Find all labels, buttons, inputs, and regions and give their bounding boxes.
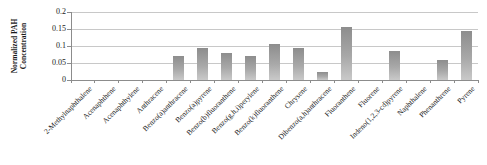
- x-axis-label: Benzo(k)fluoranthene: [233, 85, 285, 137]
- x-axis-tick: [166, 80, 167, 83]
- x-axis-tick: [190, 80, 191, 83]
- x-axis-tick: [71, 80, 72, 83]
- bar: [389, 51, 400, 80]
- bar: [197, 48, 208, 80]
- y-tick-label: 0: [36, 76, 66, 84]
- x-axis-tick: [262, 80, 263, 83]
- x-axis-tick: [142, 80, 143, 83]
- gridline: [71, 12, 478, 13]
- x-axis-tick: [94, 80, 95, 83]
- x-axis-tick: [214, 80, 215, 83]
- bar: [245, 56, 256, 80]
- x-axis-tick: [118, 80, 119, 83]
- y-tick-label: 0.2: [36, 8, 66, 16]
- x-axis-tick: [406, 80, 407, 83]
- pah-bar-chart: Normalized PAH Concentration 00.050.10.1…: [0, 0, 487, 165]
- x-axis-tick: [238, 80, 239, 83]
- y-tick-label: 0.05: [36, 59, 66, 67]
- bar: [173, 56, 184, 80]
- x-axis-tick: [478, 80, 479, 83]
- plot-area: 00.050.10.150.22-MethylnaphthaleneAcenap…: [0, 0, 487, 165]
- x-axis-tick: [382, 80, 383, 83]
- bar: [221, 53, 232, 80]
- bar: [437, 60, 448, 80]
- x-axis-tick: [358, 80, 359, 83]
- x-axis-tick: [454, 80, 455, 83]
- x-axis-tick: [334, 80, 335, 83]
- bar: [461, 31, 472, 80]
- x-axis-label: Pyrene: [456, 85, 476, 105]
- bar: [341, 27, 352, 80]
- x-axis-tick: [286, 80, 287, 83]
- y-tick-label: 0.15: [36, 25, 66, 33]
- bar: [317, 72, 328, 81]
- bar: [269, 44, 280, 80]
- gridline: [71, 29, 478, 30]
- x-axis-tick: [430, 80, 431, 83]
- bar: [293, 48, 304, 80]
- y-axis-line: [71, 12, 72, 80]
- y-tick-label: 0.1: [36, 42, 66, 50]
- x-axis-tick: [310, 80, 311, 83]
